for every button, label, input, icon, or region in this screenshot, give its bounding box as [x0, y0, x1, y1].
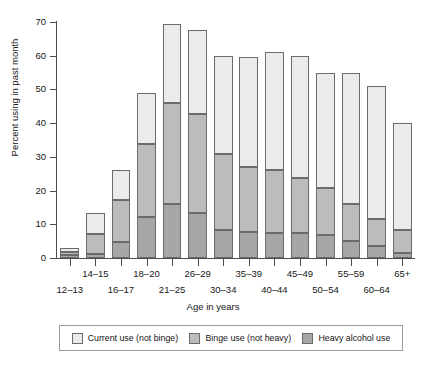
bar-segment — [265, 233, 284, 258]
bar-segment — [188, 30, 207, 114]
bar-segment — [342, 204, 361, 241]
legend-swatch-icon — [189, 333, 200, 344]
bar-segment — [316, 73, 335, 189]
bar-30–34 — [214, 22, 233, 258]
x-tick-label: 50–54 — [312, 285, 338, 295]
bar-segment — [342, 241, 361, 258]
x-axis-line — [56, 258, 415, 259]
y-tick — [50, 191, 56, 192]
bar-segment — [367, 246, 386, 258]
bar-segment — [86, 234, 105, 253]
bar-segment — [316, 188, 335, 235]
bar-segment — [188, 114, 207, 213]
x-tick-label: 14–15 — [82, 269, 108, 279]
bar-segment — [112, 170, 131, 200]
x-axis-title: Age in years — [0, 301, 426, 312]
bar-segment — [137, 93, 156, 145]
bar-segment — [60, 255, 79, 258]
bar-65+ — [393, 22, 412, 258]
bar-segment — [137, 217, 156, 258]
x-tick-label: 35–39 — [236, 269, 262, 279]
bar-12–13 — [60, 22, 79, 258]
x-tick-label: 26–29 — [184, 269, 210, 279]
x-tick — [377, 259, 378, 266]
legend-swatch-icon — [302, 333, 313, 344]
y-tick — [50, 123, 56, 124]
x-tick — [172, 259, 173, 266]
x-tick-label: 18–20 — [133, 269, 159, 279]
bar-40–44 — [265, 22, 284, 258]
x-tick-label: 65+ — [394, 269, 410, 279]
y-tick — [50, 258, 56, 259]
legend-label: Binge use (not heavy) — [205, 334, 291, 343]
bar-18–20 — [137, 22, 156, 258]
y-tick-label: 10 — [6, 219, 46, 229]
bar-60–64 — [367, 22, 386, 258]
bar-segment — [291, 233, 310, 258]
x-tick-label: 45–49 — [287, 269, 313, 279]
y-axis-title: Percent using in past month — [9, 8, 20, 188]
bar-segment — [214, 154, 233, 231]
x-tick — [351, 259, 352, 266]
bar-segment — [60, 248, 79, 252]
bar-segment — [393, 253, 412, 258]
bar-segment — [393, 123, 412, 230]
x-tick-label: 40–44 — [261, 285, 287, 295]
y-tick-label: 0 — [6, 253, 46, 263]
y-tick — [50, 224, 56, 225]
bar-segment — [188, 213, 207, 258]
x-tick-label: 12–13 — [57, 285, 83, 295]
bar-segment — [265, 170, 284, 233]
y-tick — [50, 89, 56, 90]
legend-item: Binge use (not heavy) — [189, 333, 291, 344]
bar-segment — [291, 56, 310, 178]
bar-segment — [239, 57, 258, 166]
x-tick — [326, 259, 327, 266]
bar-segment — [214, 230, 233, 258]
bar-segment — [239, 232, 258, 258]
x-tick — [402, 259, 403, 266]
legend-label: Current use (not binge) — [88, 334, 178, 343]
x-tick-label: 55–59 — [338, 269, 364, 279]
bar-26–29 — [188, 22, 207, 258]
x-tick-label: 30–34 — [210, 285, 236, 295]
x-tick-label: 16–17 — [108, 285, 134, 295]
x-tick — [198, 259, 199, 266]
x-tick — [95, 259, 96, 266]
y-tick — [50, 22, 56, 23]
x-tick — [147, 259, 148, 266]
legend-label: Heavy alcohol use — [318, 334, 390, 343]
bar-segment — [86, 254, 105, 258]
bar-segment — [393, 230, 412, 253]
x-tick — [121, 259, 122, 266]
x-tick — [274, 259, 275, 266]
bar-14–15 — [86, 22, 105, 258]
bar-16–17 — [112, 22, 131, 258]
bar-segment — [367, 86, 386, 218]
bar-35–39 — [239, 22, 258, 258]
legend-swatch-icon — [72, 333, 83, 344]
bar-segment — [137, 144, 156, 216]
bar-55–59 — [342, 22, 361, 258]
x-tick-label: 21–25 — [159, 285, 185, 295]
bar-segment — [265, 52, 284, 170]
bar-segment — [239, 167, 258, 233]
bar-segment — [163, 103, 182, 204]
bar-segment — [112, 200, 131, 242]
bar-segment — [367, 219, 386, 247]
x-tick — [223, 259, 224, 266]
bar-50–54 — [316, 22, 335, 258]
legend-item: Current use (not binge) — [72, 333, 178, 344]
y-tick — [50, 157, 56, 158]
y-tick — [50, 56, 56, 57]
chart-legend: Current use (not binge)Binge use (not he… — [59, 325, 403, 351]
bar-segment — [342, 73, 361, 205]
bar-segment — [316, 235, 335, 258]
x-tick — [300, 259, 301, 266]
bar-segment — [214, 56, 233, 154]
bar-segment — [112, 242, 131, 258]
bar-segment — [60, 252, 79, 255]
plot-area — [57, 22, 415, 258]
legend-item: Heavy alcohol use — [302, 333, 390, 344]
bar-segment — [86, 213, 105, 235]
